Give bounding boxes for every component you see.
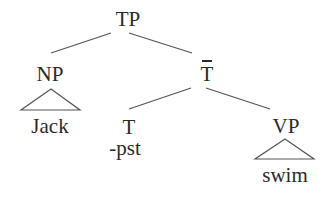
edge-tp-np bbox=[51, 33, 111, 53]
node-t: T bbox=[123, 117, 136, 138]
node-vp: VP bbox=[273, 116, 300, 137]
syntax-tree-diagram: TP NP T Jack T -pst VP swim bbox=[0, 0, 331, 198]
edge-tbar-vp bbox=[206, 88, 270, 109]
t-feature-past: -pst bbox=[109, 138, 141, 159]
np-roof-triangle bbox=[21, 89, 80, 110]
terminal-swim: swim bbox=[262, 165, 308, 186]
terminal-jack: Jack bbox=[31, 116, 68, 137]
edge-tbar-t bbox=[129, 88, 191, 109]
vp-roof-triangle bbox=[255, 139, 314, 159]
node-tp: TP bbox=[116, 9, 141, 30]
edge-tp-tbar bbox=[129, 33, 192, 53]
node-np: NP bbox=[37, 64, 64, 85]
node-tbar: T bbox=[201, 64, 214, 85]
